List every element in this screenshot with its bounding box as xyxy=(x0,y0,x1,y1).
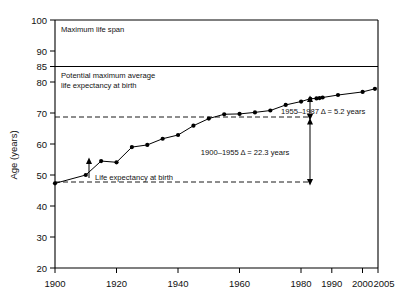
reference-lines xyxy=(55,20,378,182)
data-point xyxy=(253,110,257,114)
data-point xyxy=(161,137,165,141)
annotation-delta-1955-1987: 1955–1987 Δ = 5.2 years xyxy=(281,107,365,116)
data-point xyxy=(114,160,118,164)
data-point xyxy=(373,87,377,91)
series-line xyxy=(55,89,375,184)
data-point xyxy=(207,116,211,120)
y-tick-label: 80 xyxy=(36,77,47,88)
series-markers xyxy=(53,87,377,186)
y-axis-title: Age (years) xyxy=(8,130,19,179)
data-point xyxy=(321,95,325,99)
chart-figure: 100 90 85 80 70 60 50 40 30 20 1900 1920 xyxy=(0,0,402,305)
y-tick-label: 100 xyxy=(31,15,47,26)
x-tick-label: 1960 xyxy=(229,278,250,289)
data-point xyxy=(53,181,57,185)
y-tick-label: 85 xyxy=(36,61,47,72)
x-axis-ticks xyxy=(55,268,378,273)
life-expectancy-line-chart: 100 90 85 80 70 60 50 40 30 20 1900 1920 xyxy=(0,0,402,305)
x-tick-label: 1920 xyxy=(106,278,127,289)
annotation-delta-1900-1955: 1900–1955 Δ = 22.3 years xyxy=(201,148,290,157)
x-axis-tick-labels: 1900 1920 1940 1960 1980 1990 2000 2005 xyxy=(44,278,394,289)
life-expectancy-series xyxy=(53,87,377,186)
data-point xyxy=(99,159,103,163)
x-tick-label: 1940 xyxy=(167,278,188,289)
y-tick-label: 60 xyxy=(36,139,47,150)
data-point xyxy=(268,108,272,112)
data-point xyxy=(176,133,180,137)
annotation-life-expectancy-at-birth: Life expectancy at birth xyxy=(95,173,173,182)
y-tick-label: 30 xyxy=(36,232,47,243)
data-point xyxy=(361,90,365,94)
y-axis-tick-labels: 100 90 85 80 70 60 50 40 30 20 xyxy=(31,15,47,274)
data-point xyxy=(84,173,88,177)
y-tick-label: 90 xyxy=(36,46,47,57)
y-tick-label: 40 xyxy=(36,201,47,212)
delta-1900-1955-callout: 1900–1955 Δ = 22.3 years xyxy=(201,118,313,186)
data-point xyxy=(191,124,195,128)
y-tick-label: 50 xyxy=(36,170,47,181)
y-tick-label: 20 xyxy=(36,263,47,274)
x-tick-label: 1980 xyxy=(290,278,311,289)
x-tick-label: 2000 xyxy=(352,278,373,289)
data-point xyxy=(237,112,241,116)
annotation-potential-maximum-average-line1: Potential maximum average xyxy=(61,71,155,80)
x-tick-label: 2005 xyxy=(373,278,394,289)
x-tick-label: 1900 xyxy=(44,278,65,289)
y-axis-ticks xyxy=(50,20,55,268)
data-point xyxy=(336,93,340,97)
axes xyxy=(55,20,378,268)
y-tick-label: 70 xyxy=(36,108,47,119)
x-tick-label: 1990 xyxy=(321,278,342,289)
data-point xyxy=(222,112,226,116)
annotation-potential-maximum-average-line2: life expectancy at birth xyxy=(61,81,137,90)
data-point xyxy=(130,145,134,149)
data-point xyxy=(145,143,149,147)
data-point xyxy=(299,99,303,103)
annotation-maximum-life-span: Maximum life span xyxy=(61,25,124,34)
